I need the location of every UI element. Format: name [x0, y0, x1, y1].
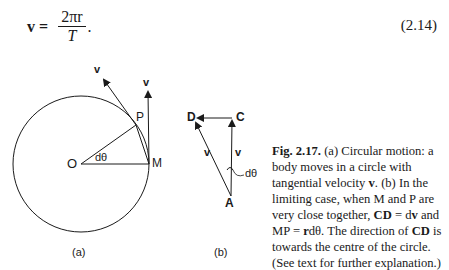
vector-ac: [231, 121, 232, 196]
caption-bold: CD: [412, 224, 430, 238]
angle-arc-b: [227, 168, 233, 171]
radius-op: [81, 125, 136, 164]
label-point-m: M: [152, 156, 162, 170]
label-v-ac: v: [235, 146, 241, 158]
caption-text: = d: [392, 208, 412, 222]
label-v-ad: v: [204, 146, 210, 158]
label-point-c: C: [236, 110, 245, 124]
figure-a: [13, 80, 149, 232]
caption-text: dθ. The direction of: [309, 224, 412, 238]
velocity-vector-p: [104, 80, 136, 125]
label-v-p: v: [94, 63, 100, 75]
label-fig-a: (a): [72, 246, 85, 258]
label-point-p: P: [136, 110, 144, 124]
figure-caption: Fig. 2.17. (a) Circular motion: a body m…: [272, 143, 449, 270]
label-point-o: O: [67, 156, 77, 171]
caption-fig-label: Fig. 2.17.: [272, 144, 321, 158]
label-point-d: D: [187, 110, 196, 124]
label-angle-a: dθ: [95, 151, 107, 163]
label-point-a: A: [225, 196, 234, 210]
chord-pm: [136, 125, 149, 164]
vector-ad: [196, 123, 231, 196]
caption-bold: CD: [374, 208, 392, 222]
label-angle-b: dθ: [245, 167, 257, 179]
angle-leader-b: [233, 170, 244, 176]
label-v-m: v: [143, 76, 149, 88]
label-fig-b: (b): [214, 246, 227, 258]
